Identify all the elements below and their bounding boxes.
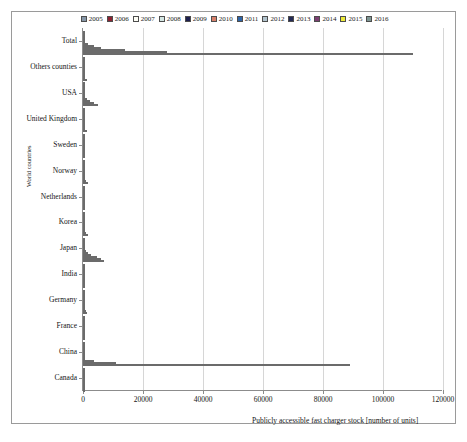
x-axis-tick bbox=[203, 390, 204, 394]
bar-group bbox=[83, 108, 442, 129]
legend-item: 2006 bbox=[107, 15, 129, 23]
y-axis-category-label: Netherlands bbox=[41, 192, 77, 201]
legend-swatch-icon bbox=[211, 16, 217, 22]
bar bbox=[83, 130, 87, 132]
y-axis-tick bbox=[79, 378, 83, 379]
x-axis-tick bbox=[263, 390, 264, 394]
legend-item: 2008 bbox=[159, 15, 181, 23]
y-axis-category-label: France bbox=[57, 321, 77, 330]
x-axis-tick-label: 40000 bbox=[194, 395, 213, 404]
legend-item: 2007 bbox=[133, 15, 155, 23]
y-axis-tick bbox=[79, 67, 83, 68]
bar-group bbox=[83, 31, 442, 52]
legend-swatch-icon bbox=[314, 16, 320, 22]
bar-group bbox=[83, 160, 442, 181]
y-axis-category-label: United Kingdom bbox=[26, 114, 77, 123]
legend-item: 2009 bbox=[185, 15, 207, 23]
x-axis-tick-label: 20000 bbox=[134, 395, 153, 404]
legend-item: 2012 bbox=[262, 15, 284, 23]
bar-group bbox=[83, 82, 442, 103]
y-axis-category-label: USA bbox=[62, 88, 77, 97]
bar-group bbox=[83, 264, 442, 285]
y-axis-tick bbox=[79, 326, 83, 327]
legend-item: 2015 bbox=[340, 15, 362, 23]
legend-item: 2016 bbox=[366, 15, 388, 23]
bar bbox=[83, 286, 85, 288]
y-axis-category-label: Sweden bbox=[53, 140, 77, 149]
y-axis-tick bbox=[79, 352, 83, 353]
bar-group bbox=[83, 212, 442, 233]
chart-legend: 2005200620072008200920102011201220132014… bbox=[12, 15, 457, 23]
bar bbox=[83, 364, 350, 366]
bar bbox=[83, 156, 85, 158]
bar-group bbox=[83, 368, 442, 389]
y-axis-tick bbox=[79, 93, 83, 94]
bar bbox=[83, 104, 98, 106]
y-axis-category-label: Canada bbox=[55, 373, 78, 382]
legend-label: 2006 bbox=[115, 15, 129, 23]
legend-label: 2010 bbox=[219, 15, 233, 23]
bar-group bbox=[83, 290, 442, 311]
bar bbox=[83, 390, 85, 392]
y-axis-tick bbox=[79, 197, 83, 198]
x-axis-tick bbox=[143, 390, 144, 394]
y-axis-category-label: Korea bbox=[59, 217, 77, 226]
bar bbox=[83, 53, 413, 55]
legend-swatch-icon bbox=[159, 16, 165, 22]
legend-label: 2013 bbox=[296, 15, 310, 23]
y-axis-tick bbox=[79, 171, 83, 172]
bar-group bbox=[83, 186, 442, 207]
x-axis-tick-label: 60000 bbox=[254, 395, 273, 404]
bar bbox=[83, 260, 104, 262]
y-axis-title: World countries bbox=[25, 145, 32, 187]
y-axis-category-label: Total bbox=[62, 36, 77, 45]
legend-label: 2007 bbox=[141, 15, 155, 23]
legend-swatch-icon bbox=[237, 16, 243, 22]
legend-swatch-icon bbox=[133, 16, 139, 22]
bar-group bbox=[83, 316, 442, 337]
y-axis-category-label: China bbox=[59, 347, 77, 356]
legend-label: 2014 bbox=[322, 15, 336, 23]
gridline bbox=[443, 28, 444, 390]
y-axis-tick bbox=[79, 274, 83, 275]
y-axis-category-label: India bbox=[62, 269, 77, 278]
bar bbox=[83, 234, 88, 236]
bar bbox=[83, 182, 88, 184]
legend-swatch-icon bbox=[107, 16, 113, 22]
bar-group bbox=[83, 134, 442, 155]
x-axis-tick bbox=[443, 390, 444, 394]
legend-item: 2010 bbox=[211, 15, 233, 23]
y-axis-tick bbox=[79, 248, 83, 249]
legend-item: 2011 bbox=[237, 15, 259, 23]
x-axis-tick-label: 120000 bbox=[432, 395, 455, 404]
y-axis-tick bbox=[79, 300, 83, 301]
figure-frame: 2005200620072008200920102011201220132014… bbox=[11, 11, 456, 424]
bar bbox=[83, 208, 85, 210]
x-axis-tick-label: 80000 bbox=[314, 395, 333, 404]
legend-swatch-icon bbox=[81, 16, 87, 22]
y-axis-tick bbox=[79, 145, 83, 146]
legend-label: 2015 bbox=[348, 15, 362, 23]
legend-item: 2013 bbox=[288, 15, 310, 23]
bar-group bbox=[83, 57, 442, 78]
legend-swatch-icon bbox=[262, 16, 268, 22]
legend-label: 2012 bbox=[270, 15, 284, 23]
x-axis-tick-label: 0 bbox=[81, 395, 85, 404]
y-axis-tick bbox=[79, 222, 83, 223]
y-axis-category-label: Japan bbox=[60, 243, 77, 252]
bar-group bbox=[83, 238, 442, 259]
x-axis-tick-label: 100000 bbox=[372, 395, 395, 404]
bar bbox=[83, 312, 87, 314]
bar bbox=[83, 79, 87, 81]
y-axis-tick bbox=[79, 41, 83, 42]
y-axis-category-label: Norway bbox=[53, 166, 77, 175]
bar-group bbox=[83, 342, 442, 363]
legend-label: 2008 bbox=[167, 15, 181, 23]
legend-label: 2011 bbox=[245, 15, 259, 23]
legend-label: 2009 bbox=[193, 15, 207, 23]
x-axis-tick bbox=[323, 390, 324, 394]
legend-label: 2005 bbox=[89, 15, 103, 23]
legend-swatch-icon bbox=[185, 16, 191, 22]
legend-swatch-icon bbox=[340, 16, 346, 22]
x-axis-tick bbox=[383, 390, 384, 394]
